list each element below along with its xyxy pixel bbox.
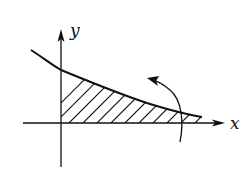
diagram-canvas: x y: [0, 0, 251, 178]
curve: [31, 50, 202, 117]
hatched-region: [41, 63, 251, 123]
x-axis-label: x: [230, 113, 240, 133]
x-axis: [23, 120, 225, 127]
y-axis-label: y: [69, 20, 80, 40]
y-axis: [58, 29, 65, 167]
